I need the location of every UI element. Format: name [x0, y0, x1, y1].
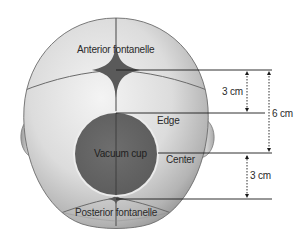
- center-label: Center: [166, 154, 195, 165]
- total-6cm-label: 6 cm: [272, 108, 293, 119]
- vacuum-cup-label: Vacuum cup: [94, 148, 147, 159]
- edge-label: Edge: [157, 115, 180, 126]
- posterior-fontanelle-label: Posterior fontanelle: [75, 207, 157, 218]
- diagram-canvas: Anterior fontanelle Edge Vacuum cup Cent…: [0, 0, 307, 240]
- upper-3cm-label: 3 cm: [222, 86, 243, 97]
- lower-3cm-label: 3 cm: [250, 170, 271, 181]
- anterior-fontanelle-label: Anterior fontanelle: [77, 44, 154, 55]
